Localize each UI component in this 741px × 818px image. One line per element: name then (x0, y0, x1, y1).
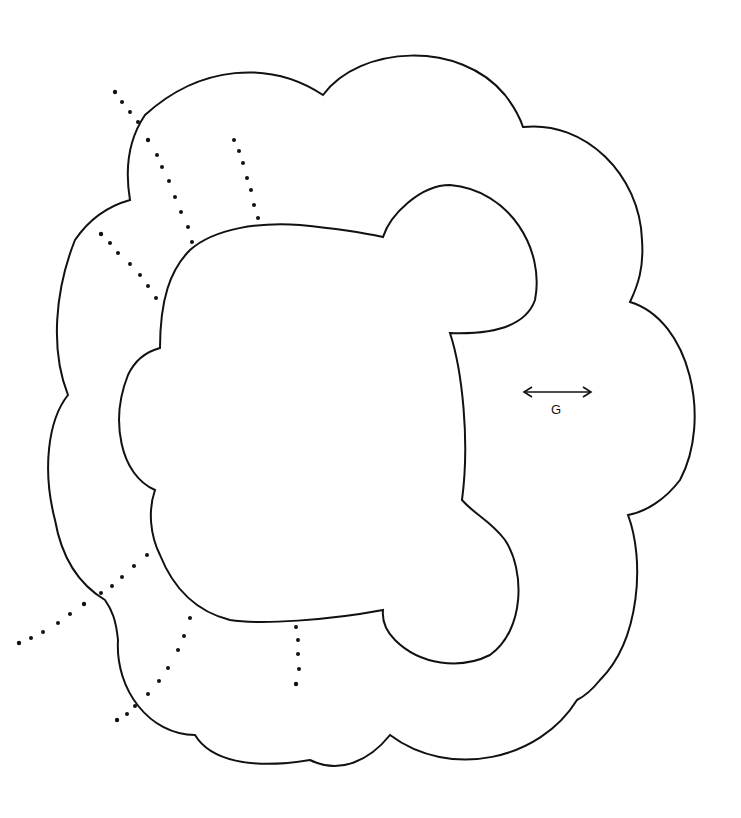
dotted-line-top-left-1 (113, 90, 194, 244)
pattern-diagram (0, 0, 741, 818)
outer-scalloped-outline (48, 56, 695, 766)
inner-scalloped-outline (119, 185, 536, 663)
dotted-line-top-left-3 (99, 232, 158, 300)
dotted-line-top-left-2 (232, 138, 260, 220)
dotted-line-bottom-left-2 (115, 616, 192, 722)
dotted-line-bottom-left-1 (17, 553, 149, 645)
grainline-arrow-icon (524, 387, 591, 397)
grainline-label: G (551, 402, 561, 417)
dotted-line-bottom-center (294, 625, 301, 686)
